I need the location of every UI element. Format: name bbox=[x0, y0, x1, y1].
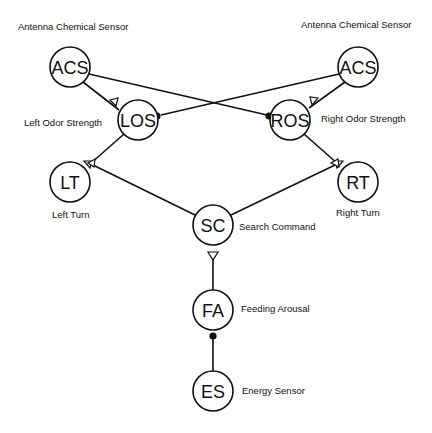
edge-ros-to-rt bbox=[304, 134, 338, 164]
edge-acs-right-to-ros bbox=[309, 82, 345, 108]
node-abbr-acs-left: ACS bbox=[51, 58, 88, 78]
node-label-es: Energy Sensor bbox=[242, 385, 305, 396]
node-label-acs-right: Antenna Chemical Sensor bbox=[301, 19, 411, 30]
node-abbr-es: ES bbox=[201, 382, 225, 402]
node-label-acs-left: Antenna Chemical Sensor bbox=[18, 21, 128, 32]
node-abbr-rt: RT bbox=[346, 173, 370, 193]
node-abbr-sc: SC bbox=[200, 216, 225, 236]
node-label-fa: Feeding Arousal bbox=[241, 303, 310, 314]
edge-sc-to-rt bbox=[231, 165, 335, 215]
node-label-los: Left Odor Strength bbox=[24, 117, 102, 128]
node-abbr-fa: FA bbox=[202, 301, 224, 321]
node-abbr-lt: LT bbox=[60, 173, 80, 193]
excitatory-triangle-icon bbox=[208, 252, 218, 260]
node-abbr-acs-right: ACS bbox=[339, 58, 376, 78]
edge-acs-right-to-los bbox=[161, 74, 339, 115]
neural-circuit-diagram: ACS ACS LOS ROS LT RT SC FA ES Antenna C… bbox=[0, 0, 432, 433]
node-label-rt: Right Turn bbox=[336, 207, 380, 218]
edge-sc-to-lt bbox=[93, 165, 195, 215]
node-label-lt: Left Turn bbox=[52, 209, 90, 220]
node-abbr-los: LOS bbox=[120, 111, 156, 131]
node-label-ros: Right Odor Strength bbox=[321, 113, 406, 124]
edge-acs-left-to-ros bbox=[89, 74, 267, 115]
inhibitory-dot-icon bbox=[209, 332, 216, 339]
node-abbr-ros: ROS bbox=[270, 111, 309, 131]
node-label-sc: Search Command bbox=[239, 221, 316, 232]
edge-acs-left-to-los bbox=[83, 82, 119, 110]
